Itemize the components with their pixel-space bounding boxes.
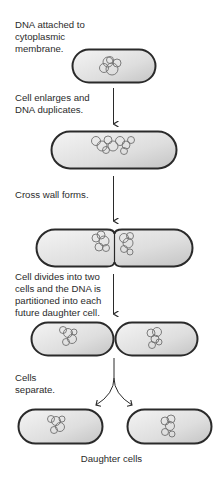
label-line: membrane.	[15, 43, 85, 55]
daughter-cells-caption: Daughter cells	[0, 453, 223, 464]
split-arrow-icon	[96, 358, 132, 405]
label-line: Cell divides into two	[15, 271, 101, 283]
label-line: Cross wall forms.	[15, 189, 89, 201]
label-line: separate.	[15, 384, 55, 396]
cell-enlarged	[52, 132, 177, 169]
step-4-label: Cell divides into two cells and the DNA …	[15, 271, 101, 319]
label-line: partitioned into each	[15, 295, 101, 307]
binary-fission-diagram	[0, 0, 223, 477]
label-line: Cells	[15, 372, 55, 384]
label-line: cells and the DNA is	[15, 283, 101, 295]
step-1-label: DNA attached to cytoplasmic membrane.	[15, 19, 85, 55]
step-2-label: Cell enlarges and DNA duplicates.	[15, 92, 90, 116]
label-line: DNA attached to	[15, 19, 85, 31]
step-3-label: Cross wall forms.	[15, 189, 89, 201]
label-line: DNA duplicates.	[15, 104, 90, 116]
label-line: Cell enlarges and	[15, 92, 90, 104]
step-5-label: Cells separate.	[15, 372, 55, 396]
cell-cross-wall	[37, 230, 193, 267]
cell-initial	[73, 50, 156, 83]
label-line: future daughter cell.	[15, 307, 101, 319]
label-line: cytoplasmic	[15, 31, 85, 43]
cells-divided	[32, 323, 198, 356]
daughter-cells	[19, 410, 212, 444]
